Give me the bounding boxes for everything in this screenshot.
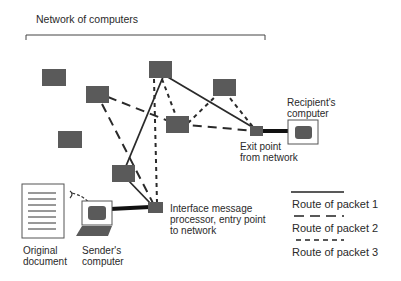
node-lower [112, 165, 135, 182]
original-document-label: Original document [23, 245, 67, 267]
entry-node [148, 202, 163, 213]
original-document-icon [22, 184, 64, 238]
node-right [213, 79, 236, 96]
recipient-label: Recipient's computer [287, 97, 336, 119]
legend-label-2: Route of packet 2 [292, 222, 378, 234]
network-bracket [26, 35, 265, 40]
entry-point-label: Interface message processor, entry point… [170, 203, 266, 236]
node-top [149, 61, 172, 78]
network-diagram [0, 0, 401, 281]
node-left [58, 131, 82, 148]
node-center [166, 116, 189, 133]
sender-laptop-icon [76, 201, 112, 236]
diagram-title: Network of computers [36, 14, 138, 25]
sender-label: Sender's computer [82, 245, 124, 267]
node-2 [86, 86, 109, 103]
route-packet-2 [102, 97, 256, 207]
legend-label-3: Route of packet 3 [292, 246, 378, 258]
network-nodes [42, 61, 263, 213]
legend-label-1: Route of packet 1 [292, 198, 378, 210]
node-1 [42, 69, 66, 86]
exit-point-label: Exit point from network [240, 141, 298, 163]
exit-node [250, 126, 263, 136]
